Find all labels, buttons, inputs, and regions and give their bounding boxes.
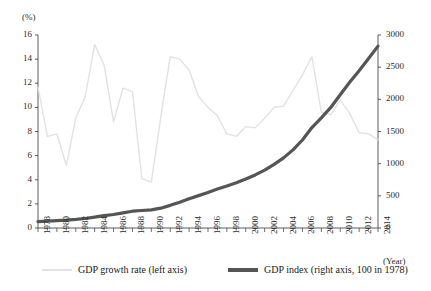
right-axis-tick-label: 500 [386,190,412,200]
x-axis-tick-label: 1990 [155,216,165,234]
left-axis-tick-label: 16 [10,29,32,39]
left-axis-tick-label: 8 [10,126,32,136]
legend-line-swatch-index [228,268,258,272]
chart-container: (%) (Year) 0246810121416 050010001500200… [0,0,431,291]
x-axis-tick-label: 1996 [212,216,222,234]
right-axis-tick-label: 2500 [386,61,412,71]
left-axis-tick-label: 10 [10,101,32,111]
x-axis-tick-label: 1988 [136,216,146,234]
x-axis-tick-label: 2010 [344,216,354,234]
legend-line-swatch-growth [42,269,72,271]
x-axis-tick-label: 2002 [269,216,279,234]
x-axis-tick-label: 2004 [288,216,298,234]
x-axis-tick-label: 2000 [250,216,260,234]
right-axis-tick-label: 1000 [386,158,412,168]
x-axis-tick-label: 2012 [363,216,373,234]
right-axis-tick-label: 3000 [386,29,412,39]
x-axis-tick-label: 1984 [99,216,109,234]
x-axis-tick-label: 2006 [306,216,316,234]
x-axis-tick-label: 1998 [231,216,241,234]
x-axis-tick-label: 1982 [80,216,90,234]
plot-area [0,0,431,291]
left-axis-tick-label: 6 [10,150,32,160]
x-axis-tick-label: 1994 [193,216,203,234]
legend-item-gdp-index: GDP index (right axis, 100 in 1978) [228,264,408,275]
legend-label-growth: GDP growth rate (left axis) [78,264,187,275]
x-axis-tick-label: 2008 [325,216,335,234]
left-axis-tick-label: 0 [10,222,32,232]
x-axis-tick-label: 1980 [61,216,71,234]
x-axis-tick-label: 1978 [42,216,52,234]
x-axis-tick-label: 2014 [382,216,392,234]
left-axis-tick-label: 14 [10,53,32,63]
x-axis-tick-label: 1992 [174,216,184,234]
x-axis-tick-label: 1986 [118,216,128,234]
left-axis-tick-label: 12 [10,77,32,87]
left-axis-tick-label: 4 [10,174,32,184]
legend-label-index: GDP index (right axis, 100 in 1978) [264,264,408,275]
right-axis-tick-label: 1500 [386,126,412,136]
left-axis-tick-label: 2 [10,198,32,208]
legend-item-gdp-growth-rate: GDP growth rate (left axis) [42,264,187,275]
chart-legend: GDP growth rate (left axis) GDP index (r… [0,262,431,284]
right-axis-tick-label: 2000 [386,93,412,103]
